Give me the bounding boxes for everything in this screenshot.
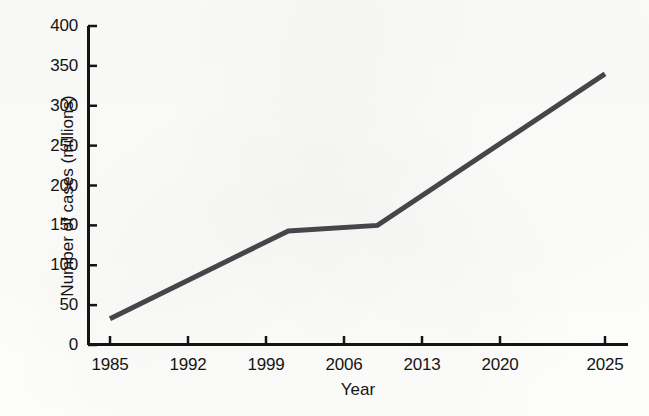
x-axis-tick-label: 2025 bbox=[586, 355, 623, 375]
x-axis-tick-label: 2020 bbox=[481, 355, 518, 375]
x-axis-tick-label: 1999 bbox=[247, 355, 284, 375]
x-axis-tick-label: 2013 bbox=[403, 355, 440, 375]
x-axis-tick-label: 1992 bbox=[169, 355, 206, 375]
chart-figure: 050100150200250300350400 198519921999200… bbox=[0, 0, 649, 416]
x-axis-title: Year bbox=[88, 380, 628, 400]
x-axis-tick-label: 2006 bbox=[325, 355, 362, 375]
line-chart-plot bbox=[0, 0, 649, 416]
chart-axes bbox=[88, 26, 628, 345]
data-line-0 bbox=[110, 74, 605, 319]
data-series-group bbox=[110, 74, 605, 319]
y-axis-tick-label: 400 bbox=[10, 16, 78, 36]
y-axis-title: Number of cases (millions) bbox=[58, 46, 78, 346]
x-axis-tick-label: 1985 bbox=[91, 355, 128, 375]
